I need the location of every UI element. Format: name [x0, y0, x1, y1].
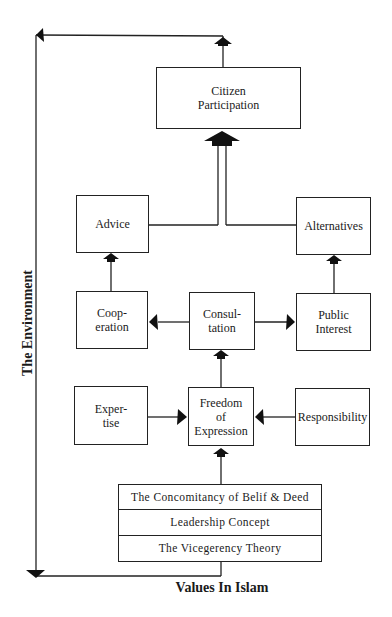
- node-label: Freedom of Expression: [194, 396, 247, 438]
- node-label: Consul- tation: [203, 307, 241, 335]
- environment-label: The Environment: [20, 268, 36, 378]
- values-in-islam-label: Values In Islam: [160, 580, 284, 596]
- node-citizen-participation: Citizen Participation: [156, 67, 301, 129]
- arrow-left-icon: [255, 409, 264, 425]
- node-label: Coop- eration: [95, 306, 128, 334]
- values-row-leadership: Leadership Concept: [119, 510, 321, 535]
- arrow-left-icon: [36, 28, 44, 42]
- node-consultation: Consul- tation: [189, 292, 255, 350]
- arrow-up-icon: [326, 255, 342, 264]
- node-responsibility: Responsibility: [295, 388, 370, 446]
- arrow-up-icon: [213, 350, 229, 359]
- arrow-up-icon: [103, 253, 119, 262]
- node-public-interest: Public Interest: [296, 293, 371, 351]
- node-label: Citizen Participation: [198, 84, 259, 112]
- values-row-vicegerency: The Vicegerency Theory: [119, 536, 321, 561]
- node-label: Responsibility: [298, 410, 367, 424]
- values-row-concomitancy: The Concomitancy of Belif & Deed: [119, 485, 321, 510]
- node-label: Exper- tise: [95, 402, 127, 430]
- arrow-up-icon: [213, 448, 229, 457]
- node-expertise: Exper- tise: [74, 386, 148, 445]
- arrow-right-icon: [177, 409, 187, 425]
- node-label: Advice: [95, 217, 130, 231]
- arrow-down-icon: [26, 570, 45, 578]
- arrow-up-icon: [214, 37, 232, 46]
- node-alternatives: Alternatives: [296, 197, 371, 255]
- arrow-left-icon: [149, 314, 158, 330]
- node-advice: Advice: [76, 195, 149, 253]
- node-label: Public Interest: [316, 308, 352, 336]
- node-freedom-of-expression: Freedom of Expression: [188, 387, 254, 446]
- node-cooperation: Coop- eration: [76, 291, 148, 349]
- arrow-up-large-icon: [204, 131, 240, 146]
- arrow-right-icon: [286, 314, 295, 330]
- values-stack: The Concomitancy of Belif & Deed Leaders…: [118, 484, 322, 562]
- node-label: Alternatives: [304, 219, 363, 233]
